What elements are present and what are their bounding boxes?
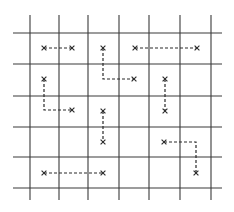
dashed-path-p4 xyxy=(44,79,72,110)
dashed-paths xyxy=(44,48,197,173)
x-mark-icon xyxy=(101,140,106,145)
grid-path-diagram xyxy=(0,0,234,212)
